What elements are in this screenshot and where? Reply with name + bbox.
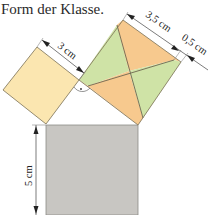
pythagoras-diagram: 3 cm 3,5 cm 0,5 cm 5 cm	[0, 0, 212, 215]
label-3-5cm: 3,5 cm	[144, 9, 174, 34]
gray-square	[46, 125, 138, 215]
small-square	[3, 47, 79, 124]
right-angle-arc	[74, 87, 90, 92]
large-square	[79, 20, 181, 125]
label-3cm: 3 cm	[56, 40, 79, 61]
dimension-5cm: 5 cm	[23, 125, 46, 215]
label-5cm: 5 cm	[23, 165, 34, 186]
